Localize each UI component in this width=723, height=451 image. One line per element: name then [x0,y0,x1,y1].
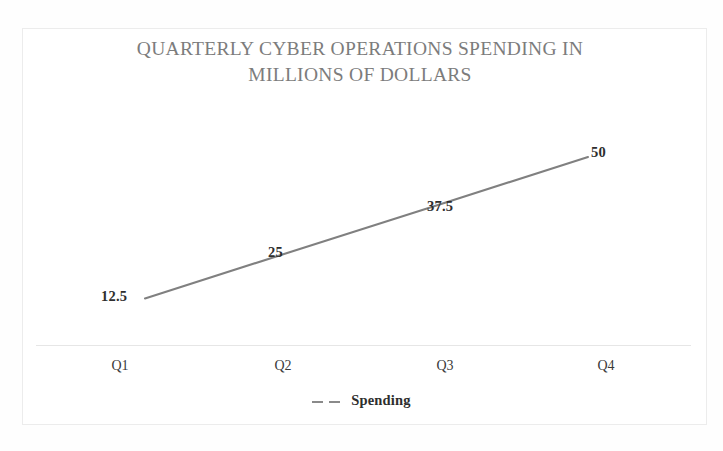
data-point-label-q2: 25 [268,244,283,261]
data-point-label-q1: 12.5 [101,288,127,305]
data-point-label-q4: 50 [591,144,606,161]
dashed-line-icon [312,395,346,407]
chart-figure: QUARTERLY CYBER OPERATIONS SPENDING IN M… [0,0,723,451]
legend-label-spending: Spending [351,392,411,409]
legend-entry-spending[interactable]: Spending [312,392,411,409]
data-point-label-q3: 37.5 [427,198,453,215]
category-label-q1: Q1 [80,358,160,374]
category-label-q2: Q2 [243,358,323,374]
category-label-q4: Q4 [566,358,646,374]
chart-legend: Spending [0,392,723,409]
category-label-q3: Q3 [405,358,485,374]
chart-title: QUARTERLY CYBER OPERATIONS SPENDING IN M… [60,36,660,88]
